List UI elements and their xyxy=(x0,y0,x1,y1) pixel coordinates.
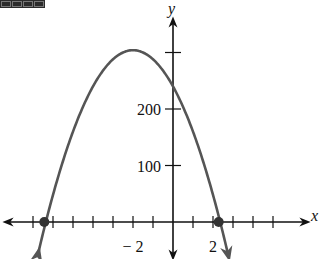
x-tick-label: 2 xyxy=(209,238,217,255)
parabola-chart: − 22100200 x y xyxy=(0,0,323,259)
y-tick-label: 200 xyxy=(137,101,161,118)
root-point xyxy=(214,217,224,227)
x-axis-label: x xyxy=(310,207,318,224)
y-axis-label: y xyxy=(166,0,176,18)
x-tick-label: − 2 xyxy=(122,238,143,255)
y-tick-label: 100 xyxy=(137,158,161,175)
tick-labels: − 22100200 xyxy=(122,101,217,255)
root-point xyxy=(39,217,49,227)
